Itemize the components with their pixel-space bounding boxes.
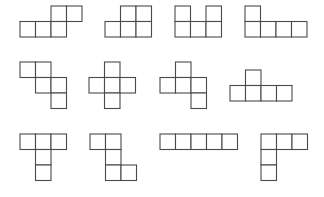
- net-cell: [277, 86, 293, 102]
- net-cell: [207, 134, 223, 150]
- net-cell: [206, 6, 222, 22]
- net-cell: [67, 6, 83, 22]
- net-cell: [121, 6, 137, 22]
- net-cell: [36, 62, 52, 78]
- net-cell: [51, 134, 67, 150]
- net-shape-2: [105, 6, 152, 37]
- net-cell: [36, 150, 52, 166]
- net-cell: [176, 62, 192, 78]
- net-cell: [292, 134, 308, 150]
- net-cell: [105, 78, 121, 94]
- net-cell: [136, 6, 152, 22]
- net-shape-9: [20, 134, 67, 181]
- net-cell: [51, 6, 67, 22]
- net-cell: [276, 22, 292, 38]
- net-cell: [105, 22, 121, 38]
- net-cell: [36, 134, 52, 150]
- net-cell: [261, 150, 277, 166]
- net-cell: [176, 78, 192, 94]
- net-cell: [36, 78, 52, 94]
- net-cell: [136, 22, 152, 38]
- net-cell: [191, 93, 207, 109]
- net-shape-7: [160, 62, 207, 109]
- net-cell: [261, 165, 277, 181]
- nets-diagram: [0, 0, 324, 197]
- net-cell: [121, 165, 137, 181]
- net-cell: [245, 6, 261, 22]
- net-cell: [51, 78, 67, 94]
- net-cell: [277, 134, 293, 150]
- net-cell: [106, 134, 122, 150]
- net-cell: [20, 22, 36, 38]
- net-cell: [89, 78, 105, 94]
- net-shape-1: [20, 6, 82, 37]
- net-cell: [106, 165, 122, 181]
- net-shape-4: [245, 6, 307, 37]
- net-cell: [261, 86, 277, 102]
- net-cell: [36, 22, 52, 38]
- net-cell: [175, 6, 191, 22]
- net-cell: [222, 134, 238, 150]
- net-cell: [160, 134, 176, 150]
- net-cell: [261, 134, 277, 150]
- net-cell: [106, 150, 122, 166]
- net-cell: [292, 22, 308, 38]
- net-cell: [230, 86, 246, 102]
- net-shape-5: [20, 62, 67, 109]
- net-cell: [160, 78, 176, 94]
- net-cell: [36, 165, 52, 181]
- net-cell: [51, 22, 67, 38]
- net-cell: [175, 22, 191, 38]
- net-cell: [176, 134, 192, 150]
- net-cell: [261, 22, 277, 38]
- net-cell: [191, 22, 207, 38]
- net-cell: [51, 93, 67, 109]
- net-shape-6: [89, 62, 136, 109]
- net-cell: [191, 134, 207, 150]
- net-cell: [105, 62, 121, 78]
- net-shape-11: [160, 134, 238, 150]
- net-cell: [246, 70, 262, 86]
- net-cell: [90, 134, 106, 150]
- net-cell: [206, 22, 222, 38]
- net-shape-8: [230, 70, 292, 101]
- net-cell: [20, 62, 36, 78]
- net-cell: [105, 93, 121, 109]
- net-cell: [191, 78, 207, 94]
- net-cell: [245, 22, 261, 38]
- net-shape-12: [261, 134, 308, 181]
- net-shape-3: [175, 6, 222, 37]
- net-cell: [121, 22, 137, 38]
- net-cell: [20, 134, 36, 150]
- net-cell: [120, 78, 136, 94]
- net-cell: [246, 86, 262, 102]
- net-shape-10: [90, 134, 137, 181]
